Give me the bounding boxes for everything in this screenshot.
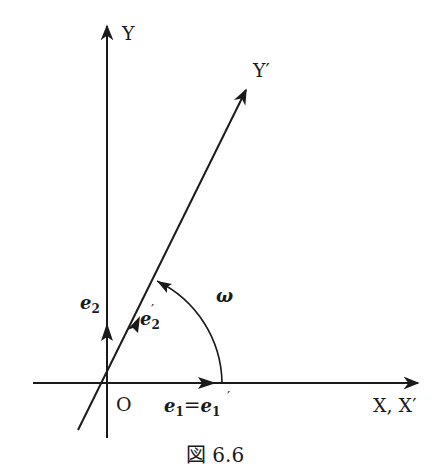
y-prime-axis-label: Y′: [252, 59, 270, 81]
y-prime-axis: [78, 90, 246, 430]
e1-equals-e1-prime-label: e1=e1: [164, 393, 220, 419]
origin-label: O: [116, 393, 132, 415]
e2-label: e2: [80, 292, 100, 316]
e2-prime-mark: ′: [151, 302, 154, 318]
figure-caption: 図 6.6: [186, 443, 244, 467]
e1-prime-mark: ′: [227, 389, 230, 405]
angle-arc: [157, 281, 222, 383]
x-axis-label: X, X′: [373, 394, 416, 416]
angle-omega-label: ω: [216, 285, 233, 306]
e2-prime-label: e2: [140, 308, 160, 332]
angle-arc-arrowhead: [157, 281, 172, 293]
y-axis-label: Y: [121, 22, 135, 44]
coordinate-diagram: Y Y′ X, X′ O e2 e2 ′ ω e1=e1 ′ 図 6.6: [0, 0, 448, 474]
